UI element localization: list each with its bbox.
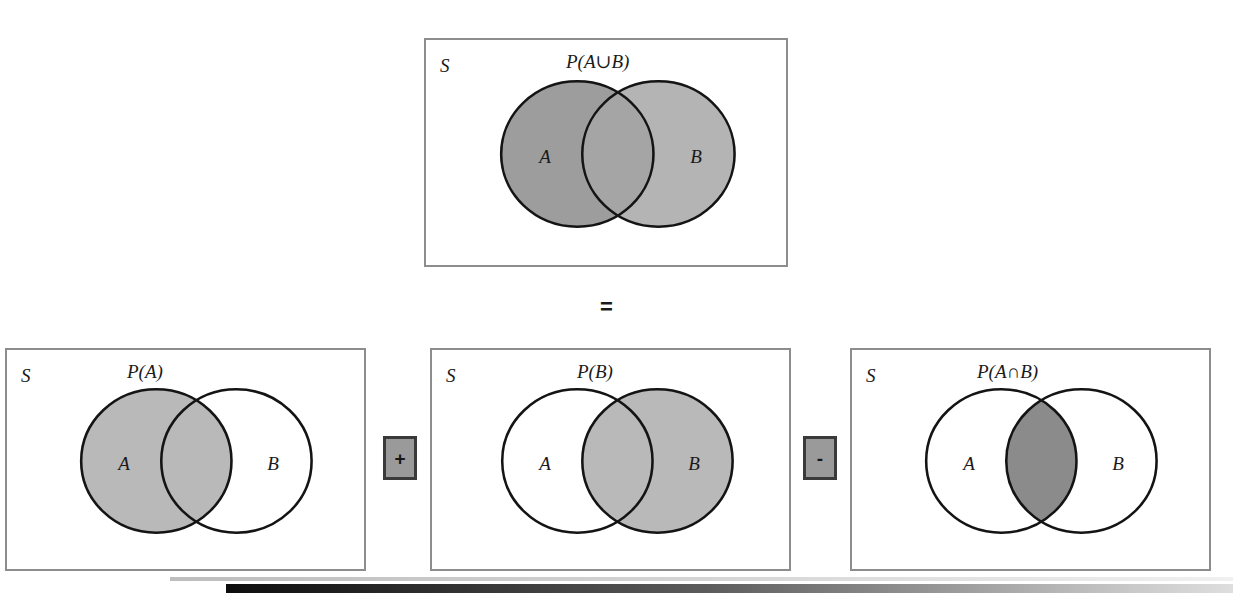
sample-space-label: S <box>446 366 456 385</box>
operator-plus-box: + <box>383 436 417 480</box>
set-label-a: A <box>963 454 975 473</box>
sample-space-label: S <box>440 56 450 75</box>
set-label-b: B <box>1112 454 1124 473</box>
venn-panel-intersection: S P(A∩B) A B <box>850 348 1211 571</box>
venn-panel-prob-b: S P(B) A B <box>430 348 791 571</box>
set-label-b: B <box>690 147 702 166</box>
bottom-rule <box>226 584 1233 593</box>
set-label-a: A <box>539 454 551 473</box>
set-label-a: A <box>118 454 130 473</box>
venn-panel-union: S P(A∪B) A B <box>424 38 788 267</box>
venn-svg-prob-a <box>7 350 364 569</box>
panel-title-union: P(A∪B) <box>566 52 629 71</box>
sample-space-label: S <box>21 366 31 385</box>
venn-svg-prob-b <box>432 350 789 569</box>
venn-svg-union <box>426 40 786 265</box>
equals-sign: = <box>600 296 613 318</box>
sample-space-label: S <box>866 366 876 385</box>
operator-minus-label: - <box>817 449 823 468</box>
set-label-b: B <box>688 454 700 473</box>
operator-minus-box: - <box>803 436 837 480</box>
bottom-rule-highlight <box>170 577 1233 581</box>
venn-svg-intersection <box>852 350 1209 569</box>
panel-title-intersection: P(A∩B) <box>977 362 1038 381</box>
panel-title-prob-a: P(A) <box>127 362 163 381</box>
venn-panel-prob-a: S P(A) A B <box>5 348 366 571</box>
operator-plus-label: + <box>394 449 405 468</box>
panel-title-prob-b: P(B) <box>577 362 613 381</box>
set-label-b: B <box>267 454 279 473</box>
set-label-a: A <box>539 147 551 166</box>
